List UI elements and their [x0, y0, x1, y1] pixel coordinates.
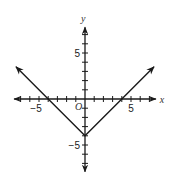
y-axis-label: y	[80, 13, 86, 24]
y-tick-label: 5	[74, 48, 80, 59]
coordinate-plane-chart: −555−5 x y O	[0, 0, 175, 185]
x-tick-label: 5	[128, 103, 134, 114]
x-axis-label: x	[159, 94, 165, 105]
x-tick-label: −5	[30, 103, 42, 114]
origin-label: O	[75, 101, 82, 112]
y-tick-label: −5	[69, 140, 81, 151]
